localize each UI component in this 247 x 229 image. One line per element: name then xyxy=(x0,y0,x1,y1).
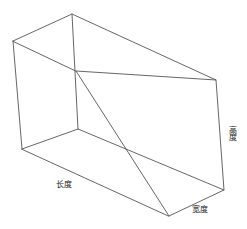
height-label: 高度 xyxy=(227,126,235,140)
bottom-face xyxy=(22,129,224,216)
width-label: 宽度 xyxy=(192,205,208,214)
vertical-edge-front-left xyxy=(76,71,169,216)
vertical-edge-front-right xyxy=(216,80,224,190)
top-face xyxy=(13,14,216,80)
cuboid-wireframe xyxy=(0,0,247,229)
cuboid-diagram-canvas: 长度 宽度 高度 xyxy=(0,0,247,229)
length-label: 长度 xyxy=(56,180,72,189)
vertical-edge-back-left xyxy=(13,41,22,149)
